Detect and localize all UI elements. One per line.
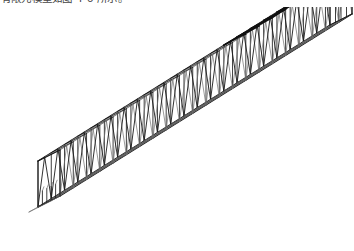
truss-member <box>264 16 271 66</box>
truss-member <box>303 22 338 41</box>
truss-member <box>272 14 279 64</box>
truss-member <box>290 31 325 50</box>
truss-member <box>237 64 272 83</box>
truss-member <box>179 71 186 121</box>
truss-geometry <box>29 7 352 212</box>
truss-member <box>197 58 204 108</box>
truss-member <box>211 49 218 99</box>
truss-member <box>65 140 72 190</box>
truss-member <box>171 105 206 124</box>
truss-member <box>272 7 330 18</box>
truss-member <box>219 47 226 97</box>
truss-member <box>78 163 113 182</box>
truss-member <box>58 138 80 149</box>
truss-member <box>104 146 139 165</box>
truss-member <box>98 113 120 124</box>
truss-member <box>38 157 45 207</box>
truss-member <box>224 72 259 91</box>
truss-member <box>124 96 146 107</box>
truss-member <box>104 116 111 166</box>
truss-member <box>113 113 120 163</box>
clipped-caption-strip: 有限元模型如图 4-6 所示。 <box>0 0 354 7</box>
truss-member <box>131 99 138 149</box>
truss-member <box>250 55 285 74</box>
truss-member <box>184 97 219 116</box>
truss-member <box>259 22 266 72</box>
truss-member <box>126 105 133 155</box>
truss-member <box>84 121 106 132</box>
truss-member <box>224 41 231 91</box>
truss-member <box>164 71 186 82</box>
space-truss-wireframe <box>0 7 354 251</box>
truss-member <box>237 33 244 83</box>
truss-member <box>157 113 192 132</box>
truss-member <box>60 146 67 196</box>
truss-member <box>131 130 166 149</box>
truss-member <box>45 146 67 157</box>
truss-member <box>204 47 226 58</box>
figure-caption: 有限元模型如图 4-6 所示。 <box>1 0 128 5</box>
truss-member <box>277 39 312 58</box>
truss-member <box>264 47 299 66</box>
truss-member <box>157 82 164 132</box>
truss-member <box>303 7 310 42</box>
truss-member <box>144 91 151 141</box>
truss-member <box>184 66 191 116</box>
truss-member <box>65 171 100 190</box>
truss-member <box>91 155 126 174</box>
truss-member <box>29 201 51 212</box>
truss-member <box>151 80 173 91</box>
truss-member <box>118 138 153 157</box>
truss-member <box>144 122 179 141</box>
truss-member <box>206 55 213 105</box>
truss-member <box>42 187 44 191</box>
truss-member <box>47 185 49 189</box>
truss-member <box>177 63 199 74</box>
truss-member <box>250 25 257 75</box>
figure-page: 有限元模型如图 4-6 所示。 <box>0 0 354 251</box>
truss-member <box>45 157 52 199</box>
truss-member <box>51 149 58 199</box>
truss-member <box>138 88 160 99</box>
truss-member <box>277 8 284 58</box>
truss-figure <box>0 7 354 251</box>
truss-member <box>306 7 313 39</box>
truss-member <box>211 80 246 99</box>
truss-member <box>78 132 85 182</box>
truss-member <box>118 107 125 157</box>
truss-member <box>191 55 213 66</box>
truss-member <box>73 138 80 188</box>
truss-member <box>217 38 239 49</box>
truss-member <box>71 129 93 140</box>
truss-member <box>91 124 98 174</box>
truss-member <box>197 88 232 107</box>
truss-member <box>286 7 293 55</box>
truss-member <box>56 180 58 184</box>
truss-member <box>171 74 178 124</box>
truss-member <box>111 105 133 116</box>
truss-member <box>166 80 173 130</box>
